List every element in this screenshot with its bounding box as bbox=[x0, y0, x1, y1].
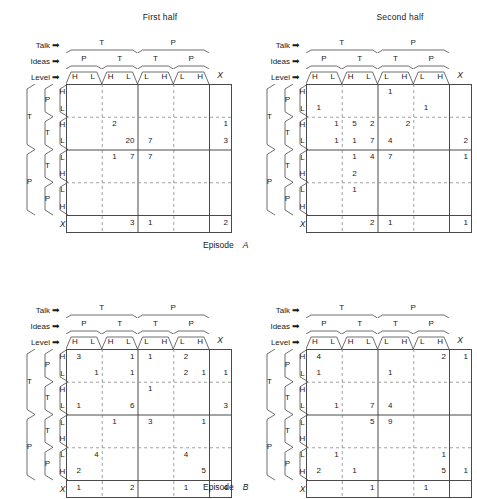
matrix-cell-value: 1 bbox=[413, 104, 428, 112]
matrix-cell-value: 1 bbox=[209, 120, 228, 128]
header-brace-level: HLHLLHLH bbox=[306, 335, 471, 350]
matrix-cell-value: 1 bbox=[191, 369, 206, 377]
matrix-cell-value: 1 bbox=[120, 353, 135, 361]
matrix-cell-value: 2 bbox=[102, 120, 117, 128]
arrow-icon: ➡ bbox=[292, 40, 300, 50]
header-level-label: H bbox=[431, 337, 449, 346]
header-ideas-label: P bbox=[173, 319, 209, 328]
axis-label-talk: Talk➡ bbox=[258, 40, 300, 50]
header-level-label: H bbox=[306, 72, 324, 81]
matrix-cell-value: 2 bbox=[173, 353, 188, 361]
header-ideas-label: P bbox=[66, 54, 102, 63]
matrix-cell-value: 5 bbox=[342, 120, 357, 128]
row-middle-label: T bbox=[42, 426, 53, 435]
row-outer-label: T bbox=[264, 377, 275, 386]
matrix-cell-value: 4 bbox=[84, 451, 99, 459]
matrix-panel-episode-b-first-half: Talk➡Ideas➡Level➡TPPTTPHLHLLHLHXTPPTTPHL… bbox=[0, 265, 240, 499]
matrix-cell-value: 1 bbox=[360, 484, 375, 492]
row-outer-label: P bbox=[24, 442, 35, 451]
matrix-cell-value: 1 bbox=[449, 219, 468, 227]
episode-caption: EpisodeB bbox=[203, 482, 248, 492]
matrix-cell-value: 1 bbox=[342, 137, 357, 145]
matrix-cell-value: 1 bbox=[324, 451, 339, 459]
arrow-icon: ➡ bbox=[292, 72, 300, 82]
arrow-icon: ➡ bbox=[52, 321, 60, 331]
row-outer-label: T bbox=[24, 112, 35, 121]
row-middle-label: P bbox=[282, 360, 293, 369]
matrix-cell-value: 3 bbox=[120, 219, 135, 227]
row-outer-label: P bbox=[264, 177, 275, 186]
matrix-cell-value: 1 bbox=[66, 484, 81, 492]
matrix-cell-value: 2 bbox=[449, 137, 468, 145]
matrix-cell-value: 4 bbox=[360, 153, 375, 161]
matrix-grid: 111152211742147121211 bbox=[306, 84, 471, 232]
axis-label-talk: Talk➡ bbox=[18, 305, 60, 315]
header-brace-level: HLHLLHLH bbox=[66, 335, 231, 350]
arrow-icon: ➡ bbox=[52, 337, 60, 347]
header-level-label: H bbox=[66, 72, 84, 81]
header-ideas-label: T bbox=[342, 319, 378, 328]
matrix-cell-value: 1 bbox=[102, 418, 117, 426]
matrix-cell-value: 1 bbox=[209, 369, 228, 377]
matrix-grid: 311211211116313144251214 bbox=[66, 349, 231, 497]
row-middle-label: T bbox=[42, 393, 53, 402]
header-level-label: L bbox=[173, 337, 191, 346]
matrix-cell-value: 2 bbox=[431, 353, 446, 361]
header-level-label: L bbox=[360, 72, 378, 81]
matrix-cell-value: 1 bbox=[102, 153, 117, 161]
row-middle-label: T bbox=[42, 128, 53, 137]
row-outer-label: P bbox=[24, 177, 35, 186]
header-level-label: H bbox=[431, 72, 449, 81]
figure-root: First halfTalk➡Ideas➡Level➡TPPTTPHLHLLHL… bbox=[0, 0, 477, 499]
header-talk-label: T bbox=[66, 38, 138, 47]
matrix-cell-value: 4 bbox=[173, 451, 188, 459]
header-extra-column: X bbox=[449, 335, 471, 345]
matrix-cell-value: 1 bbox=[342, 467, 357, 475]
matrix-panel-episode-b-second-half: Talk➡Ideas➡Level➡TPPTTPHLHLLHLHXTPPTTPHL… bbox=[240, 265, 477, 499]
arrow-icon: ➡ bbox=[292, 305, 300, 315]
header-level-label: H bbox=[191, 72, 209, 81]
matrix-grid: 421111745911215111 bbox=[306, 349, 471, 497]
header-talk-label: T bbox=[306, 38, 378, 47]
header-talk-label: P bbox=[138, 303, 210, 312]
header-brace-talk: TP bbox=[306, 303, 471, 318]
header-talk-label: P bbox=[378, 303, 450, 312]
header-level-label: L bbox=[413, 337, 431, 346]
axis-label-ideas: Ideas➡ bbox=[18, 56, 60, 66]
matrix-cell-value: 4 bbox=[378, 137, 393, 145]
axis-label-ideas: Ideas➡ bbox=[258, 56, 300, 66]
matrix-panel-episode-a-first-half: First halfTalk➡Ideas➡Level➡TPPTTPHLHLLHL… bbox=[0, 0, 240, 265]
matrix-cell-value: 2 bbox=[342, 170, 357, 178]
axis-label-ideas: Ideas➡ bbox=[18, 321, 60, 331]
header-level-label: L bbox=[173, 72, 191, 81]
header-ideas-label: T bbox=[138, 54, 174, 63]
matrix-cell-value: 5 bbox=[431, 467, 446, 475]
matrix-cell-value: 1 bbox=[378, 369, 393, 377]
matrix-cell-value: 9 bbox=[378, 418, 393, 426]
matrix-cell-value: 1 bbox=[342, 153, 357, 161]
row-middle-label: P bbox=[282, 95, 293, 104]
axis-label-level: Level➡ bbox=[258, 337, 300, 347]
matrix-cell-value: 3 bbox=[209, 402, 228, 410]
header-level-label: L bbox=[84, 72, 102, 81]
arrow-icon: ➡ bbox=[52, 56, 60, 66]
matrix-cell-value: 2 bbox=[306, 467, 321, 475]
matrix-cell-value: 1 bbox=[324, 120, 339, 128]
axis-label-level: Level➡ bbox=[18, 72, 60, 82]
header-level-label: H bbox=[155, 72, 173, 81]
matrix-cell-value: 1 bbox=[413, 484, 428, 492]
matrix-cell-value: 1 bbox=[84, 369, 99, 377]
header-ideas-label: T bbox=[378, 319, 414, 328]
episode-caption: EpisodeA bbox=[203, 240, 248, 250]
row-middle-label: T bbox=[282, 128, 293, 137]
header-talk-label: P bbox=[378, 38, 450, 47]
episode-letter: A bbox=[243, 240, 249, 250]
header-ideas-label: P bbox=[66, 319, 102, 328]
matrix-cell-value: 1 bbox=[449, 467, 468, 475]
header-brace-level: HLHLLHLH bbox=[66, 70, 231, 85]
matrix-cell-value: 1 bbox=[173, 484, 188, 492]
matrix-cell-value: 3 bbox=[66, 353, 81, 361]
matrix-cell-value: 1 bbox=[324, 137, 339, 145]
matrix-cell-value: 2 bbox=[173, 369, 188, 377]
header-ideas-label: T bbox=[102, 319, 138, 328]
